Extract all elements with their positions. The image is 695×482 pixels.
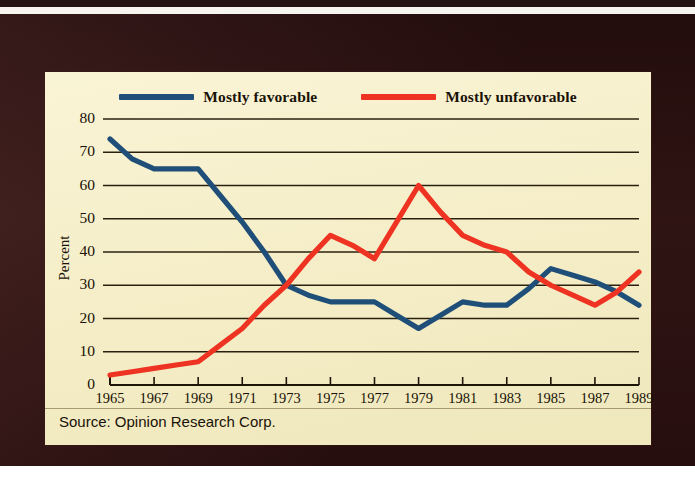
x-tick-label: 1967 bbox=[131, 390, 177, 407]
chart-panel: Mostly favorable Mostly unfavorable Perc… bbox=[45, 72, 651, 445]
x-tick-label: 1989 bbox=[616, 390, 662, 407]
figure-frame: Mostly favorable Mostly unfavorable Perc… bbox=[0, 14, 695, 466]
scan-white-gap bbox=[0, 7, 695, 14]
x-tick-label: 1979 bbox=[396, 390, 442, 407]
x-tick-label: 1987 bbox=[572, 390, 618, 407]
source-divider bbox=[45, 408, 651, 409]
y-tick-label: 50 bbox=[61, 209, 95, 227]
y-tick-label: 80 bbox=[61, 109, 95, 127]
series-line-favorable bbox=[110, 139, 639, 329]
y-tick-label: 20 bbox=[61, 309, 95, 327]
x-tick-label: 1965 bbox=[87, 390, 133, 407]
x-tick-label: 1985 bbox=[528, 390, 574, 407]
x-tick-label: 1977 bbox=[352, 390, 398, 407]
x-tick-label: 1969 bbox=[175, 390, 221, 407]
y-tick-label: 10 bbox=[61, 342, 95, 360]
source-note: Source: Opinion Research Corp. bbox=[59, 413, 276, 430]
x-tick-label: 1983 bbox=[484, 390, 530, 407]
x-tick-label: 1971 bbox=[219, 390, 265, 407]
y-tick-label: 60 bbox=[61, 176, 95, 194]
scan-top-strip bbox=[0, 0, 695, 7]
y-tick-label: 70 bbox=[61, 142, 95, 160]
x-tick-label: 1975 bbox=[307, 390, 353, 407]
x-tick-label: 1973 bbox=[263, 390, 309, 407]
screenshot-root: Mostly favorable Mostly unfavorable Perc… bbox=[0, 0, 695, 482]
y-tick-label: 40 bbox=[61, 242, 95, 260]
series-line-unfavorable bbox=[110, 186, 639, 376]
x-tick-label: 1981 bbox=[440, 390, 486, 407]
scan-bottom-strip bbox=[0, 466, 695, 482]
y-tick-label: 30 bbox=[61, 275, 95, 293]
